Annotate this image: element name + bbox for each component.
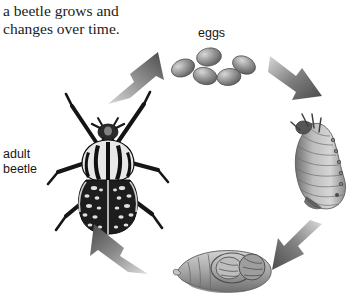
arrow-larva-to-pupa <box>260 220 328 282</box>
stage-label-adult-beetle: adult beetle <box>3 147 37 177</box>
stage-label-eggs: eggs <box>198 26 225 41</box>
arrow-adult-to-eggs <box>104 44 176 108</box>
pupa-body <box>173 251 271 293</box>
arrow-pupa-to-adult <box>76 218 152 282</box>
beetle-life-cycle-figure: a beetle grows and changes over time. eg… <box>0 0 357 297</box>
arrow-eggs-to-larva <box>266 52 332 114</box>
stage-larva <box>288 112 350 222</box>
adult-beetle-body <box>48 92 168 234</box>
larva-body <box>291 114 346 209</box>
figure-title: a beetle grows and changes over time. <box>3 2 203 38</box>
beetle-pronotum <box>82 140 134 182</box>
stage-eggs <box>168 44 260 88</box>
egg-shapes <box>169 46 259 87</box>
